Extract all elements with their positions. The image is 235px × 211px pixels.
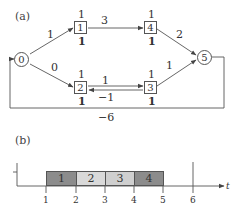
edge-3-5-weight: 1 — [166, 60, 173, 71]
node-1: 1 — [74, 21, 87, 34]
edge-0-1-weight: 1 — [47, 29, 54, 40]
t-axis-label: t — [226, 182, 230, 191]
node-2: 2 — [74, 81, 87, 94]
node-2-bottom-label: 1 — [78, 96, 86, 107]
gantt-bar-2: 2 — [76, 171, 106, 186]
tick-label-4: 4 — [131, 196, 137, 205]
node-3-top-label: 1 — [148, 69, 155, 80]
edge-4-5-weight: 2 — [176, 29, 183, 40]
tick-label-1: 1 — [43, 196, 49, 205]
edge-3-2-weight: −1 — [98, 92, 114, 103]
tick-label-2: 2 — [73, 196, 79, 205]
tick-label-3: 3 — [102, 196, 108, 205]
node-5: 5 — [197, 50, 212, 65]
node-0: 0 — [14, 52, 29, 67]
edge-3-5 — [157, 60, 196, 86]
gantt-bar-1: 1 — [46, 171, 77, 186]
edge-1-4-weight: 3 — [101, 15, 108, 26]
node-4-top-label: 1 — [148, 9, 155, 20]
edge-2-3-weight: 1 — [102, 75, 109, 86]
edge-5-0-weight: −6 — [98, 112, 114, 123]
node-1-bottom-label: 1 — [78, 36, 86, 47]
node-3: 3 — [144, 81, 157, 94]
node-4-bottom-label: 1 — [148, 36, 156, 47]
tick-label-5: 5 — [160, 196, 166, 205]
gantt-bar-4: 4 — [134, 171, 164, 186]
node-3-bottom-label: 1 — [148, 96, 156, 107]
node-1-top-label: 1 — [78, 9, 85, 20]
node-2-top-label: 1 — [78, 69, 85, 80]
node-4: 4 — [144, 21, 157, 34]
tick-label-6: 6 — [190, 196, 196, 205]
gantt-bar-3: 3 — [105, 171, 135, 186]
edge-5-0 — [10, 57, 224, 108]
panel-a-label: (a) — [15, 10, 30, 23]
edge-0-2-weight: 0 — [51, 62, 58, 73]
panel-b-label: (b) — [15, 134, 31, 147]
